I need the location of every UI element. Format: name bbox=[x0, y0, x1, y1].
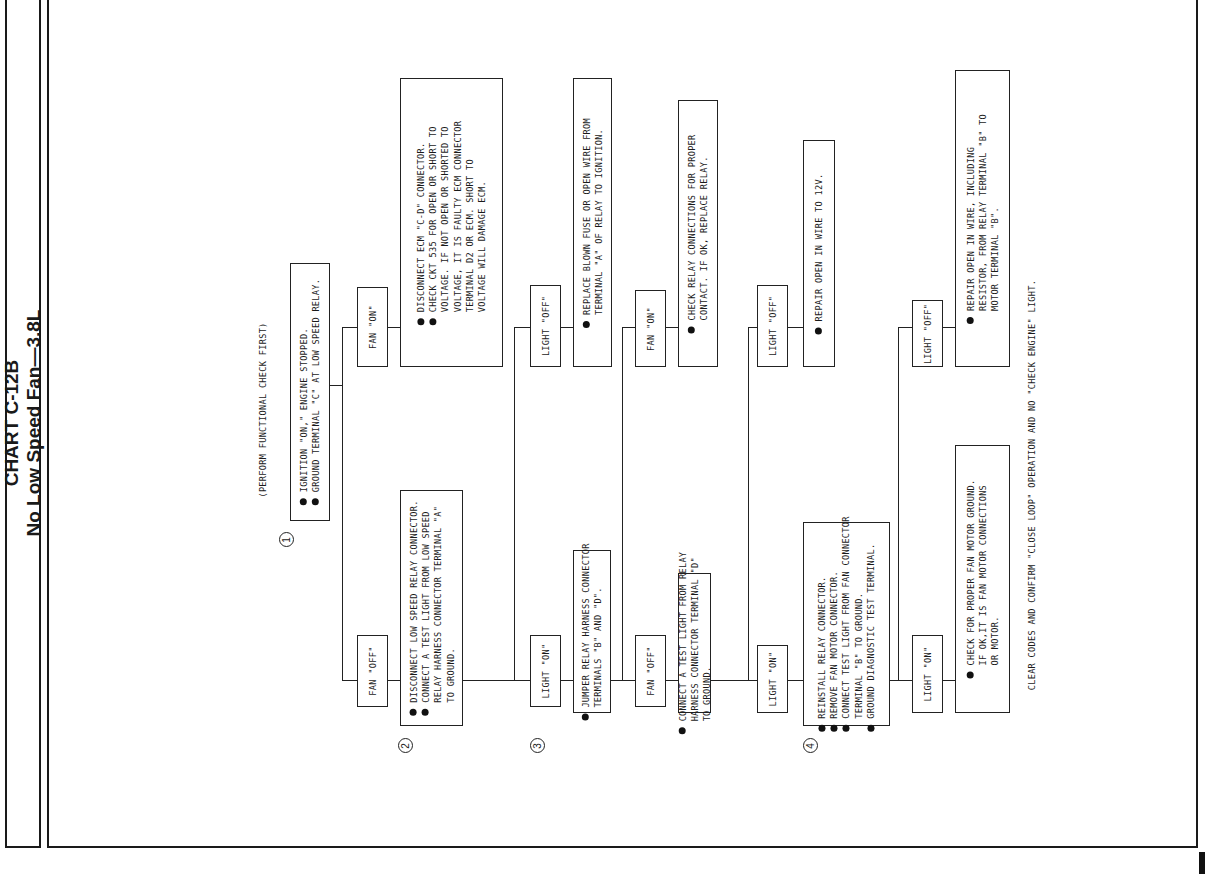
step-4-box: REINSTALL RELAY CONNECTOR. REMOVE FAN MO… bbox=[803, 522, 890, 726]
branch-fan-off: FAN "OFF" bbox=[357, 635, 388, 707]
bullet-icon bbox=[966, 672, 973, 679]
connector bbox=[463, 680, 515, 681]
title-panel: CHART C-12B No Low Speed Fan—3.8L bbox=[5, 0, 41, 848]
branch-light-on: LIGHT "ON" bbox=[530, 635, 561, 707]
footer-note: CLEAR CODES AND CONFIRM "CLOSE LOOP" OPE… bbox=[1024, 200, 1040, 770]
outcome-light-off-fuse: REPLACE BLOWN FUSE OR OPEN WIRE FROM TER… bbox=[573, 78, 612, 367]
bullet-icon bbox=[417, 318, 424, 325]
connector bbox=[514, 327, 530, 328]
branch-light-on: LIGHT "ON" bbox=[757, 645, 788, 713]
branch-fan-on: FAN "ON" bbox=[635, 290, 666, 367]
step-2-box: DISCONNECT LOW SPEED RELAY CONNECTOR. CO… bbox=[400, 490, 463, 726]
connector bbox=[788, 680, 803, 681]
connector bbox=[898, 327, 912, 328]
bullet-icon bbox=[818, 725, 825, 732]
branch-fan-on: FAN "ON" bbox=[357, 287, 388, 367]
branch-fan-off: FAN "OFF" bbox=[635, 635, 666, 707]
bullet-icon bbox=[409, 709, 416, 716]
bullet-icon bbox=[582, 321, 589, 328]
connector bbox=[943, 327, 955, 328]
outcome-fan-on-ecm: DISCONNECT ECM "C-D" CONNECTOR. CHECK CK… bbox=[400, 78, 503, 367]
bullet-icon bbox=[429, 318, 436, 325]
outcome-fan-on-relay: CHECK RELAY CONNECTIONS FOR PROPER CONTA… bbox=[678, 100, 718, 367]
connector bbox=[514, 680, 530, 681]
page-edge-mark bbox=[1199, 852, 1205, 874]
bullet-icon bbox=[300, 498, 307, 505]
bullet-icon bbox=[421, 709, 428, 716]
bullet-icon bbox=[842, 725, 849, 732]
bullet-icon bbox=[312, 498, 319, 505]
connector bbox=[342, 680, 357, 681]
connector bbox=[943, 680, 955, 681]
bullet-icon bbox=[582, 713, 589, 720]
connector bbox=[666, 327, 678, 328]
connector bbox=[388, 327, 400, 328]
connector bbox=[514, 327, 515, 681]
connector bbox=[342, 327, 343, 681]
connector bbox=[748, 327, 749, 681]
branch-light-off: LIGHT "OFF" bbox=[912, 300, 943, 367]
branch-light-off: LIGHT "OFF" bbox=[530, 285, 561, 367]
step-2-marker: 2 bbox=[398, 738, 413, 753]
step-1-marker: 1 bbox=[279, 532, 294, 547]
connector bbox=[561, 680, 573, 681]
connector bbox=[788, 327, 803, 328]
chart-title: CHART C-12B No Low Speed Fan—3.8L bbox=[1, 123, 45, 723]
outcome-light-on-ground: CHECK FOR PROPER FAN MOTOR GROUND. IF OK… bbox=[955, 445, 1010, 713]
connector bbox=[622, 327, 635, 328]
outcome-light-off-12v: REPAIR OPEN IN WIRE TO 12V. bbox=[803, 140, 835, 367]
bullet-icon bbox=[830, 725, 837, 732]
outcome-light-off-resistor: REPAIR OPEN IN WIRE, INCLUDING RESISTOR,… bbox=[955, 70, 1010, 367]
bullet-icon bbox=[678, 727, 685, 734]
connector bbox=[622, 680, 635, 681]
step-test-light-d-box: CONNECT A TEST LIGHT FROM RELAY HARNESS … bbox=[678, 573, 711, 713]
branch-light-off: LIGHT "OFF" bbox=[757, 285, 788, 367]
connector bbox=[898, 327, 899, 681]
step-4-marker: 4 bbox=[803, 738, 818, 753]
connector bbox=[748, 327, 757, 328]
connector bbox=[342, 327, 357, 328]
bullet-icon bbox=[966, 317, 973, 324]
connector bbox=[622, 327, 623, 681]
connector bbox=[898, 680, 912, 681]
chart-id: CHART C-12B bbox=[1, 123, 23, 723]
connector bbox=[711, 680, 749, 681]
chart-subtitle: No Low Speed Fan—3.8L bbox=[23, 123, 45, 723]
connector bbox=[388, 680, 400, 681]
branch-light-on: LIGHT "ON" bbox=[912, 635, 943, 713]
connector bbox=[748, 680, 757, 681]
connector bbox=[561, 327, 573, 328]
step-3-marker: 3 bbox=[530, 738, 545, 753]
bullet-icon bbox=[867, 725, 874, 732]
bullet-icon bbox=[815, 327, 822, 334]
step-3-box: JUMPER RELAY HARNESS CONNECTOR TERMINALS… bbox=[573, 550, 611, 713]
bullet-icon bbox=[688, 326, 695, 333]
preamble-note: (PERFORM FUNCTIONAL CHECK FIRST) bbox=[255, 290, 271, 530]
step-1-box: IGNITION "ON," ENGINE STOPPED. GROUND TE… bbox=[290, 263, 330, 521]
step-1-content: IGNITION "ON," ENGINE STOPPED. GROUND TE… bbox=[298, 279, 322, 505]
